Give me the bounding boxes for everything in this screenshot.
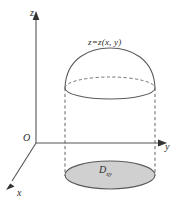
surface-dome-top xyxy=(65,48,155,88)
surface-base-front-arc xyxy=(65,88,155,99)
z-axis-label: z xyxy=(30,8,34,18)
surface-equation-label: z=z(x, y) xyxy=(88,38,121,47)
surface-base-hidden-arc xyxy=(65,77,155,88)
region-label: Dxy xyxy=(99,165,112,178)
surface-group xyxy=(65,48,155,99)
x-axis-label: x xyxy=(17,188,21,198)
x-axis-line xyxy=(12,143,36,181)
y-axis-label: y xyxy=(165,142,169,152)
figure-canvas xyxy=(0,0,177,202)
origin-label: O xyxy=(23,133,30,143)
math-figure-3d-surface-projection: z y x O z=z(x, y) Dxy xyxy=(0,0,177,202)
x-axis-arrowhead xyxy=(6,184,15,190)
region-label-subscript: xy xyxy=(106,170,112,177)
